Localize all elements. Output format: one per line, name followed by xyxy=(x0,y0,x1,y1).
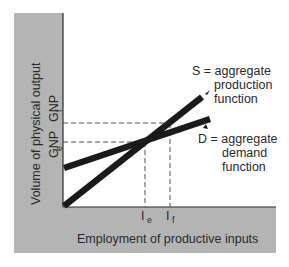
s-label-line-1: S = aggregate xyxy=(192,64,271,78)
gnp-e-label: GNP xyxy=(47,131,61,158)
i-e-label: I xyxy=(141,209,144,223)
d-label-line-3: function xyxy=(222,160,266,174)
x-axis-title: Employment of productive inputs xyxy=(77,232,258,246)
i-f-label: I xyxy=(166,209,169,223)
x-axis-band xyxy=(14,207,276,253)
d-label-line-2: demand xyxy=(222,146,267,160)
d-label-line-1: D = aggregate xyxy=(198,132,278,146)
s-production-line xyxy=(64,97,202,206)
production-demand-diagram: S = aggregate production function D = ag… xyxy=(0,0,289,267)
d-demand-line xyxy=(64,119,210,168)
gnp-f-label: GNP xyxy=(47,95,61,122)
d-pointer-arrow-icon xyxy=(203,124,208,129)
s-label-line-3: function xyxy=(214,92,258,106)
i-e-subscript: e xyxy=(147,215,152,225)
gnp-e-subscript: e xyxy=(54,146,64,151)
y-axis-title: Volume of physical output xyxy=(29,62,43,205)
s-label-line-2: production xyxy=(214,78,272,92)
s-pointer-arrow-icon xyxy=(205,90,210,95)
